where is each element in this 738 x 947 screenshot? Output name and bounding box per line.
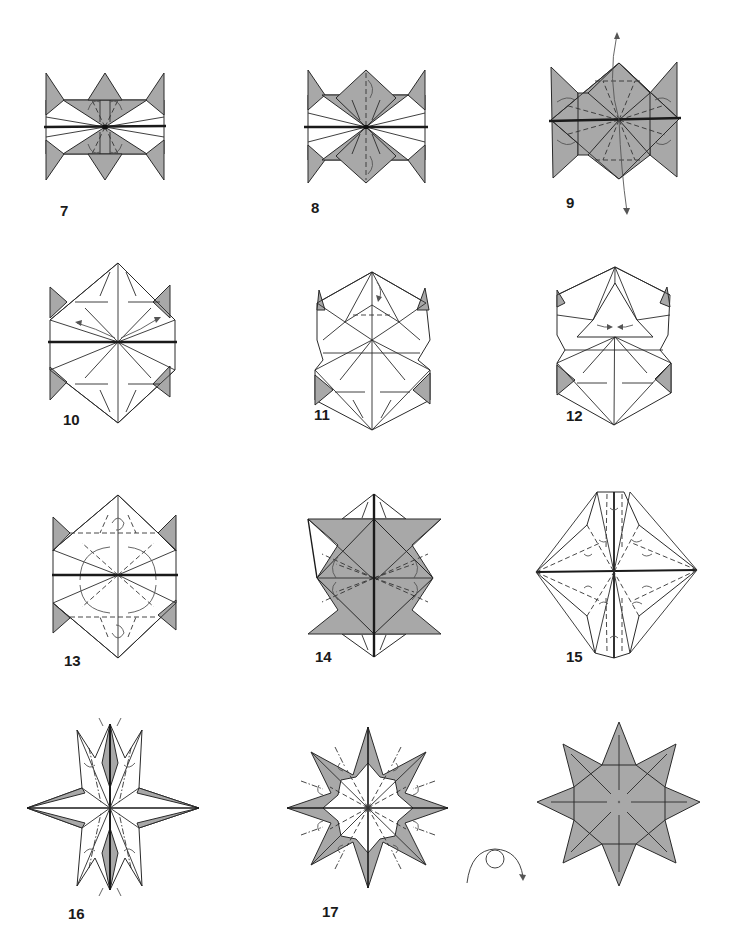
step-15-diagram (532, 488, 712, 663)
step-14-number: 14 (315, 648, 332, 665)
step-17-number: 17 (322, 903, 339, 920)
finished-star-figure (537, 720, 702, 890)
step-12-diagram (555, 265, 690, 430)
step-13-figure (50, 495, 180, 665)
step-11-number: 11 (314, 406, 330, 423)
step-14-figure (308, 492, 438, 662)
step-12-number: 12 (566, 407, 583, 424)
step-12-figure (555, 265, 690, 430)
step-8-figure (300, 70, 430, 190)
finished-star-diagram (537, 720, 702, 890)
step-9-figure (545, 30, 685, 220)
step-10-diagram (45, 260, 175, 430)
step-13-diagram (50, 495, 180, 665)
step-9-number: 9 (566, 194, 574, 211)
step-17-diagram (285, 725, 450, 890)
step-7-number: 7 (60, 202, 68, 219)
turn-over-icon (465, 845, 525, 890)
step-15-figure (532, 488, 712, 663)
step-8-diagram (300, 70, 430, 190)
step-10-figure (45, 260, 175, 430)
step-16-diagram (27, 718, 207, 898)
step-7-diagram (40, 70, 170, 190)
step-10-number: 10 (63, 411, 80, 428)
step-9-diagram (545, 30, 685, 220)
step-15-number: 15 (566, 648, 583, 665)
step-7-figure (40, 70, 170, 190)
step-13-number: 13 (64, 652, 81, 669)
step-16-figure (27, 718, 207, 898)
step-16-number: 16 (68, 905, 85, 922)
step-17-figure (285, 725, 450, 890)
turn-over-symbol (465, 845, 525, 890)
step-14-diagram (308, 492, 438, 662)
step-8-number: 8 (311, 199, 319, 216)
